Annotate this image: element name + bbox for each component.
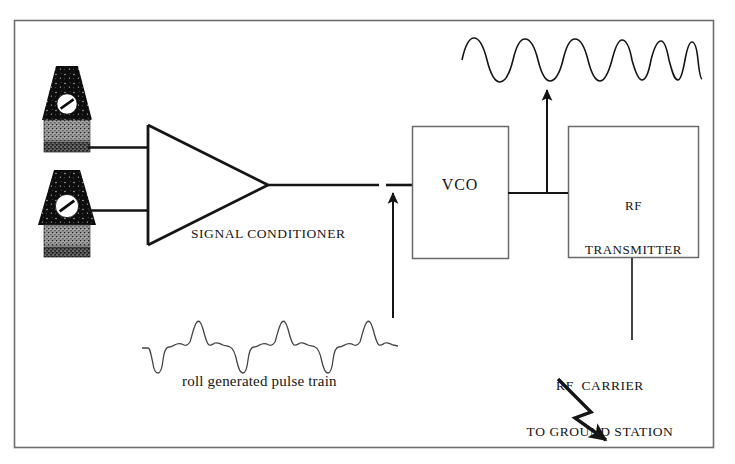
diagram-canvas: SIGNAL CONDITIONER VCO RF TRANSMITTER RF… xyxy=(0,0,735,464)
sensor-upper xyxy=(42,66,92,152)
pulse-train-waveform xyxy=(142,321,398,373)
rf-transmitter-label-line2: TRANSMITTER xyxy=(568,243,699,258)
sensor-lower xyxy=(38,170,96,257)
vco-label: VCO xyxy=(412,176,508,194)
sensor-terminal-upper xyxy=(44,142,90,152)
fm-carrier-waveform xyxy=(462,38,702,82)
sensor-terminal-lower xyxy=(44,247,90,257)
rf-transmitter-label-line1: RF xyxy=(568,199,699,214)
signal-conditioner-label: SIGNAL CONDITIONER xyxy=(191,226,346,241)
pulse-train-caption: roll generated pulse train xyxy=(182,373,337,390)
rf-carrier-label: RF CARRIER TO GROUND STATION xyxy=(500,348,700,464)
rf-carrier-label-line2: TO GROUND STATION xyxy=(500,424,700,439)
rf-carrier-label-line1: RF CARRIER xyxy=(500,378,700,393)
rf-transmitter-label: RF TRANSMITTER xyxy=(568,170,699,286)
sensor-wiring xyxy=(88,148,148,211)
